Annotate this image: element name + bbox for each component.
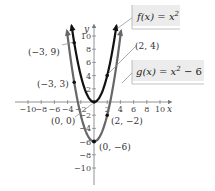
point-m3-3	[72, 80, 76, 84]
y-tick-label: 4	[86, 72, 91, 81]
point-0-0	[92, 100, 96, 104]
point-2-4	[105, 74, 109, 78]
svg-text:g(x) = x2 − 6: g(x) = x2 − 6	[136, 65, 202, 77]
svg-text:f(x) = x2: f(x) = x2	[136, 10, 180, 22]
x-tick-label: −4	[62, 105, 74, 114]
x-tick-label: −8	[35, 105, 47, 114]
x-tick-label: 6	[131, 105, 136, 114]
g-legend-suffix: − 6	[181, 66, 202, 77]
x-tick-label: 8	[144, 105, 149, 114]
x-axis-label: x	[167, 104, 172, 114]
legend-g: g(x) = x2 − 6	[132, 60, 204, 84]
x-tick-label: −10	[20, 105, 37, 114]
y-tick-label: −8	[79, 151, 91, 160]
x-tick-label: −6	[49, 105, 61, 114]
f-legend-text: f(x) = x	[136, 11, 175, 22]
g-legend-text: g(x) = x	[136, 66, 177, 77]
label-2-4: (2, 4)	[135, 41, 159, 51]
point-2-m2	[105, 113, 109, 117]
label-2-m2: (2, −2)	[111, 116, 143, 126]
f-legend-leader	[118, 17, 133, 28]
y-tick-label: −10	[74, 164, 91, 173]
parabola-chart: −10−8−6−4−2246810 108642−2−4−6−8−10 x y …	[0, 0, 215, 191]
y-tick-label: 8	[86, 45, 91, 54]
label-0-0: (0, 0)	[51, 116, 75, 126]
label-0-m6: (0, −6)	[99, 142, 131, 152]
x-tick-labels: −10−8−6−4−2246810	[20, 105, 166, 114]
legend-f: f(x) = x2	[132, 5, 180, 29]
label-m3-3: (−3, 3)	[37, 79, 69, 89]
y-tick-label: 6	[86, 58, 91, 67]
point-0-m6	[92, 140, 96, 144]
f-legend-sup: 2	[174, 10, 180, 18]
label-m3-9: (−3, 9)	[28, 47, 60, 57]
y-axis-label: y	[83, 24, 90, 34]
x-tick-label: 4	[118, 105, 123, 114]
point-m3-9	[72, 41, 76, 45]
g-legend-leader	[122, 72, 133, 83]
x-tick-label: 10	[155, 105, 165, 114]
